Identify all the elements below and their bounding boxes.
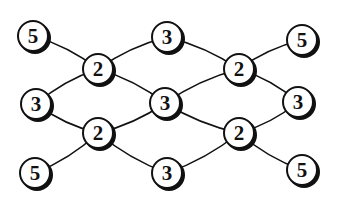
node-label: 3 bbox=[293, 92, 304, 113]
node-n2: 3 bbox=[151, 21, 183, 53]
node-label: 2 bbox=[234, 123, 245, 144]
node-label: 2 bbox=[93, 123, 104, 144]
node-n8: 3 bbox=[282, 86, 314, 118]
node-n11: 5 bbox=[19, 157, 51, 189]
node-label: 3 bbox=[162, 163, 173, 184]
node-n9: 2 bbox=[82, 117, 114, 149]
node-n4: 2 bbox=[82, 53, 114, 85]
node-label: 3 bbox=[31, 94, 42, 115]
node-label: 2 bbox=[93, 59, 104, 80]
node-label: 5 bbox=[28, 26, 39, 47]
node-n3: 5 bbox=[286, 24, 318, 56]
node-label: 3 bbox=[162, 27, 173, 48]
node-label: 3 bbox=[160, 93, 171, 114]
node-label: 5 bbox=[297, 160, 308, 181]
node-n1: 5 bbox=[17, 20, 49, 52]
node-label: 5 bbox=[30, 163, 41, 184]
node-n7: 3 bbox=[149, 87, 181, 119]
graph-diagram: 5 3 5 2 2 3 3 3 2 2 5 3 5 bbox=[0, 0, 339, 204]
node-n5: 2 bbox=[223, 53, 255, 85]
node-n13: 5 bbox=[286, 154, 318, 186]
node-n10: 2 bbox=[223, 117, 255, 149]
node-label: 5 bbox=[297, 30, 308, 51]
node-n6: 3 bbox=[20, 88, 52, 120]
node-n12: 3 bbox=[151, 157, 183, 189]
node-label: 2 bbox=[234, 59, 245, 80]
